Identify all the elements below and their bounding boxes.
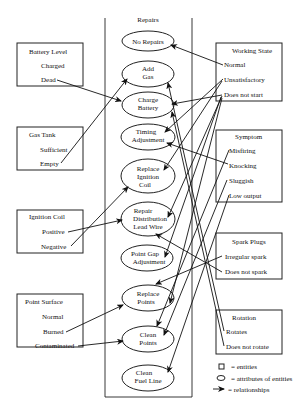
- entity-working-state: Working State Normal Unsatisfactory Does…: [216, 43, 282, 101]
- entity-ignition-coil: Ignition Coil Positive Negative: [17, 210, 83, 253]
- svg-text:Does not spark: Does not spark: [225, 268, 267, 276]
- svg-text:Rotation: Rotation: [232, 314, 257, 322]
- svg-text:Rotates: Rotates: [226, 328, 247, 336]
- svg-text:Positive: Positive: [42, 228, 65, 236]
- repair-point-gap-adjustment: Point Gap Adjustment: [121, 245, 173, 271]
- svg-text:Spark Plugs: Spark Plugs: [232, 238, 266, 246]
- entity-gas-tank: Gas Tank Sufficient Empty: [17, 127, 83, 170]
- svg-text:Coil: Coil: [139, 181, 151, 189]
- entity-spark-plugs: Spark Plugs Irregular spark Does not spa…: [216, 233, 282, 279]
- svg-text:Low output: Low output: [229, 192, 262, 200]
- svg-text:Does not start: Does not start: [224, 91, 263, 99]
- svg-text:Distribution: Distribution: [133, 215, 167, 223]
- svg-text:Irregular spark: Irregular spark: [225, 253, 267, 261]
- repair-timing-adjustment: Timing Adjustment: [121, 124, 175, 150]
- svg-text:Adjustment: Adjustment: [132, 136, 165, 144]
- svg-text:Add: Add: [142, 65, 155, 73]
- svg-text:Clean: Clean: [140, 331, 157, 339]
- svg-text:Unsatisfactory: Unsatisfactory: [224, 76, 265, 84]
- attribute-legend-icon: [217, 376, 225, 381]
- svg-text:Contaminated: Contaminated: [35, 342, 75, 350]
- repair-no-repairs: No Repairs: [122, 31, 174, 51]
- svg-text:Charge: Charge: [138, 96, 158, 104]
- svg-text:Negative: Negative: [41, 243, 66, 251]
- repair-charge-battery: Charge Battery: [122, 92, 174, 118]
- svg-text:Empty: Empty: [40, 160, 59, 168]
- svg-text:Burned: Burned: [43, 328, 64, 336]
- repair-replace-points: Replace Points: [122, 285, 174, 311]
- svg-text:Points: Points: [137, 298, 155, 306]
- svg-text:Points: Points: [139, 339, 157, 347]
- entity-legend-icon: [219, 364, 224, 369]
- svg-text:Point Gap: Point Gap: [131, 250, 160, 258]
- svg-text:Replace: Replace: [137, 165, 160, 173]
- svg-text:Battery Level: Battery Level: [29, 48, 67, 56]
- svg-text:Normal: Normal: [224, 61, 245, 69]
- svg-text:No Repairs: No Repairs: [132, 38, 164, 46]
- svg-text:Battery: Battery: [138, 104, 159, 112]
- svg-text:Sluggish: Sluggish: [229, 177, 254, 185]
- repairs-title: Repairs: [137, 16, 159, 24]
- svg-text:Timing: Timing: [136, 128, 157, 136]
- entity-point-surface: Point Surface Normal Burned Contaminated: [17, 294, 83, 350]
- svg-text:Dead: Dead: [41, 76, 56, 84]
- svg-text:Sufficient: Sufficient: [40, 146, 68, 154]
- legend-attributes: = attributes of entities: [231, 375, 293, 383]
- svg-text:Working State: Working State: [232, 47, 272, 55]
- svg-text:Adjustment: Adjustment: [133, 258, 166, 266]
- repair-add-gas: Add Gas: [122, 61, 174, 87]
- svg-text:Ignition: Ignition: [137, 173, 160, 181]
- svg-text:Charged: Charged: [41, 62, 65, 70]
- legend: = entities = attributes of entities = re…: [213, 363, 293, 394]
- repair-distribution-lead-wire: Repair Distribution Lead Wire: [121, 202, 175, 236]
- svg-text:Symptom: Symptom: [235, 133, 263, 141]
- repair-clean-fuel-line: Clean Fuel Line: [122, 365, 174, 391]
- svg-text:Misfiring: Misfiring: [229, 147, 256, 155]
- svg-text:Gas: Gas: [143, 73, 154, 81]
- svg-text:Knocking: Knocking: [229, 162, 257, 170]
- svg-text:Fuel Line: Fuel Line: [134, 377, 161, 385]
- svg-text:Point Surface: Point Surface: [25, 298, 63, 306]
- svg-text:Gas Tank: Gas Tank: [29, 131, 56, 139]
- repair-replace-ignition-coil: Replace Ignition Coil: [121, 159, 175, 193]
- er-diagram: Repairs No Repairs Add Gas Charge Batter…: [0, 0, 304, 410]
- entity-rotation: Rotation Rotates Does not rotate: [216, 310, 282, 354]
- svg-text:Does not rotate: Does not rotate: [226, 343, 269, 351]
- svg-text:Clean: Clean: [136, 369, 153, 377]
- entity-battery-level: Battery Level Charged Dead: [17, 43, 83, 86]
- legend-entities: = entities: [231, 363, 257, 371]
- svg-text:Replace: Replace: [137, 290, 160, 298]
- svg-text:Normal: Normal: [42, 313, 63, 321]
- legend-relationships: = relationships: [228, 386, 270, 394]
- svg-text:Lead Wire: Lead Wire: [133, 223, 162, 231]
- svg-text:Repair: Repair: [134, 207, 153, 215]
- svg-text:Ignition Coil: Ignition Coil: [29, 213, 65, 221]
- entity-symptom: Symptom Misfiring Knocking Sluggish Low …: [216, 130, 282, 202]
